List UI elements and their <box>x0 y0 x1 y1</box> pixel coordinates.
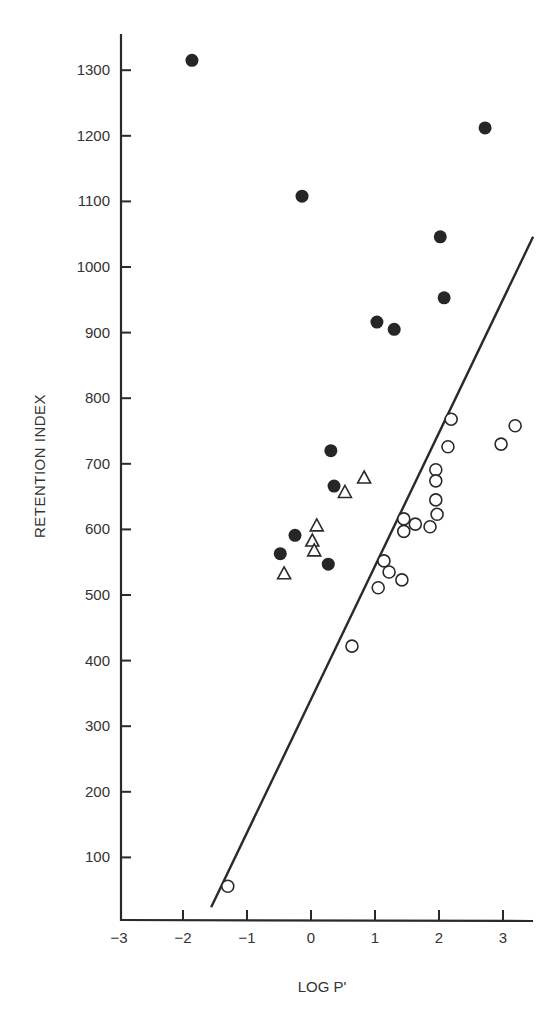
filled-circle-marker <box>296 190 309 203</box>
open-triangle-marker <box>310 519 323 531</box>
y-tick-label: 800 <box>85 389 110 406</box>
open-circle-marker <box>398 513 410 525</box>
fit-line <box>211 237 533 907</box>
open-circle-marker <box>509 420 521 432</box>
filled-circle-marker <box>324 444 337 457</box>
open-triangle-marker <box>278 567 291 579</box>
y-axis-label: RETENTION INDEX <box>31 394 48 538</box>
ticks: 1002003004005006007008009001000110012001… <box>77 61 508 946</box>
open-circle-marker <box>495 438 507 450</box>
filled-circle-marker <box>274 547 287 560</box>
open-circle-marker <box>409 518 421 530</box>
filled-circle-marker <box>479 121 492 134</box>
open-circle-marker <box>396 574 408 586</box>
open-circle-marker <box>378 555 390 567</box>
open-circle-marker <box>431 508 443 520</box>
y-tick-label: 600 <box>85 520 110 537</box>
y-tick-label: 1000 <box>77 258 110 275</box>
filled-circle-marker <box>370 316 383 329</box>
open-circle-marker <box>445 413 457 425</box>
x-axis-label: LOG P' <box>298 978 347 995</box>
filled-circle-marker <box>289 529 302 542</box>
filled-circle-marker <box>438 291 451 304</box>
x-tick-label: −2 <box>174 929 191 946</box>
y-tick-label: 200 <box>85 783 110 800</box>
regression-line <box>211 237 533 907</box>
open-circle-marker <box>346 640 358 652</box>
y-tick-label: 700 <box>85 455 110 472</box>
y-tick-label: 300 <box>85 717 110 734</box>
y-tick-label: 500 <box>85 586 110 603</box>
axes <box>120 34 533 921</box>
x-tick-label: 2 <box>435 929 443 946</box>
open-circle-marker <box>430 464 442 476</box>
open-triangle-marker <box>358 471 371 483</box>
x-tick-label: −3 <box>110 929 127 946</box>
x-axis <box>120 920 533 921</box>
filled-circle-marker <box>388 323 401 336</box>
y-tick-label: 400 <box>85 652 110 669</box>
scatter-chart: 1002003004005006007008009001000110012001… <box>0 0 557 1019</box>
open-triangle-marker <box>306 534 319 546</box>
y-tick-label: 100 <box>85 848 110 865</box>
y-tick-label: 1300 <box>77 61 110 78</box>
y-tick-label: 900 <box>85 324 110 341</box>
open-circle-marker <box>442 441 454 453</box>
open-circle-marker <box>430 475 442 487</box>
x-tick-label: 3 <box>499 929 507 946</box>
x-tick-label: 1 <box>371 929 379 946</box>
open-circle-marker <box>398 525 410 537</box>
open-circle-marker <box>372 582 384 594</box>
x-tick-label: 0 <box>307 929 315 946</box>
x-tick-label: −1 <box>238 929 255 946</box>
data-points <box>185 54 521 892</box>
open-circle-marker <box>424 521 436 533</box>
open-circle-marker <box>222 880 234 892</box>
filled-circle-marker <box>322 558 335 571</box>
filled-circle-marker <box>185 54 198 67</box>
filled-circle-marker <box>434 230 447 243</box>
open-circle-marker <box>383 566 395 578</box>
filled-circle-marker <box>328 480 341 493</box>
y-tick-label: 1100 <box>78 192 110 209</box>
open-circle-marker <box>430 494 442 506</box>
y-tick-label: 1200 <box>77 127 110 144</box>
